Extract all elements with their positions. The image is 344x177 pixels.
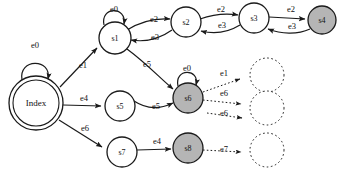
node-s2[interactable]: s2: [171, 7, 201, 37]
edge-label-s1-s6: e5: [143, 59, 151, 69]
edge-label-index-s1: e1: [79, 60, 87, 70]
edge-s6-ghost2: [203, 100, 241, 104]
edge-s3-s4: [269, 17, 305, 19]
edge-label-index-s5: e4: [80, 93, 89, 103]
node-s3[interactable]: s3: [239, 3, 269, 33]
node-s3-label: s3: [250, 14, 257, 23]
node-s7[interactable]: s7: [107, 137, 137, 167]
edge-s2-s3: [200, 14, 238, 19]
node-s8-label: s8: [184, 144, 191, 153]
node-s7-label: s7: [118, 148, 125, 157]
diagram-canvas: Index s1 s2 s3 s4 s5 s6 s7: [0, 0, 344, 177]
edge-label-s3-s4: e2: [287, 4, 295, 14]
edge-label-s6-ghost2: e6: [220, 88, 228, 98]
edge-label-s8-ghost3: e7: [220, 144, 228, 154]
edge-label-s6-ghost1: e1: [220, 68, 228, 78]
edge-label-s1-s2: e2: [150, 14, 158, 24]
edge-label-s2-s1: e3: [151, 32, 159, 42]
node-s8[interactable]: s8: [173, 133, 203, 163]
edge-label-ghost2-loop: e6: [220, 108, 228, 118]
edge-label-index-s7: e6: [81, 123, 89, 133]
node-s1-label: s1: [111, 34, 118, 43]
state-graph-svg: Index s1 s2 s3 s4 s5 s6 s7: [0, 0, 344, 177]
edge-label-s5-s6: e5: [152, 101, 160, 111]
node-s5-label: s5: [116, 102, 123, 111]
node-s6[interactable]: s6: [173, 83, 203, 113]
edge-index-s5: [63, 105, 101, 106]
node-s6-label: s6: [184, 94, 191, 103]
edge-label-s4-s3: e3: [288, 21, 296, 31]
ghost-node-2: [250, 91, 284, 125]
edge-s1-s2: [127, 19, 170, 30]
edge-label-s7-s8: e4: [153, 136, 162, 146]
node-s2-label: s2: [182, 18, 189, 27]
edge-label-index-index: e0: [31, 40, 39, 50]
edge-label-s3-s2: e3: [218, 20, 226, 30]
node-index-label: Index: [26, 98, 47, 108]
node-s4[interactable]: s4: [308, 6, 336, 34]
node-s1[interactable]: s1: [99, 22, 131, 54]
node-s5[interactable]: s5: [105, 91, 135, 121]
edge-label-s1-s1: e0: [110, 4, 118, 14]
ghost-node-1: [250, 58, 284, 92]
edge-s7-s8: [137, 149, 171, 150]
node-index[interactable]: Index: [9, 76, 63, 130]
edge-s1-s6: [127, 49, 173, 89]
edge-label-s2-s3: e2: [217, 4, 225, 14]
edge-label-s6-s6: e0: [183, 63, 191, 73]
ghost-node-3: [250, 133, 284, 167]
node-s4-label: s4: [318, 16, 325, 25]
